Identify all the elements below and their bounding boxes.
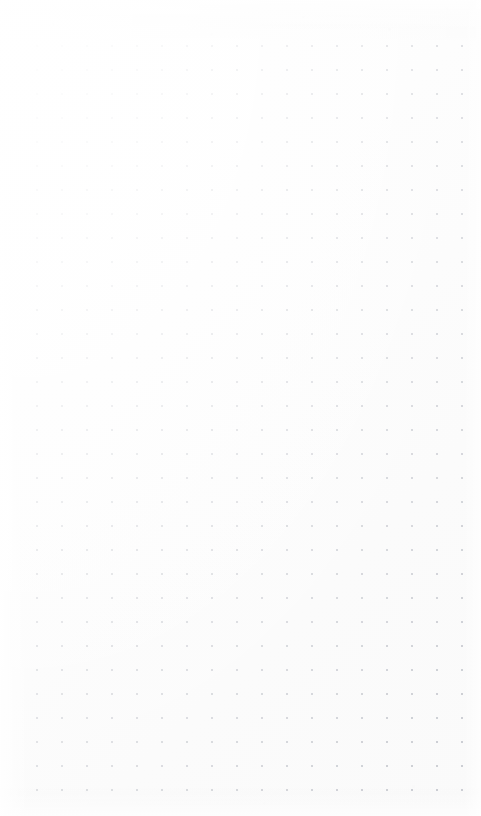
grid-dot bbox=[261, 189, 263, 191]
grid-dot bbox=[411, 597, 413, 599]
grid-dot bbox=[436, 621, 438, 623]
grid-dot bbox=[161, 261, 163, 263]
grid-dot bbox=[61, 645, 63, 647]
grid-dot bbox=[111, 549, 113, 551]
grid-dot bbox=[411, 357, 413, 359]
grid-dot bbox=[286, 693, 288, 695]
grid-dot bbox=[386, 477, 388, 479]
grid-dot bbox=[111, 789, 113, 791]
grid-dot bbox=[286, 405, 288, 407]
grid-dot bbox=[236, 237, 238, 239]
grid-dot bbox=[136, 573, 138, 575]
grid-dot bbox=[336, 573, 338, 575]
grid-dot bbox=[186, 69, 188, 71]
grid-dot bbox=[311, 477, 313, 479]
grid-dot bbox=[411, 117, 413, 119]
grid-dot bbox=[461, 405, 463, 407]
grid-dot bbox=[36, 549, 38, 551]
grid-dot bbox=[461, 693, 463, 695]
grid-dot bbox=[161, 189, 163, 191]
grid-dot bbox=[186, 45, 188, 47]
grid-dot bbox=[161, 501, 163, 503]
grid-dot bbox=[211, 405, 213, 407]
grid-dot bbox=[286, 357, 288, 359]
grid-dot bbox=[311, 501, 313, 503]
grid-dot bbox=[436, 453, 438, 455]
grid-dot bbox=[336, 405, 338, 407]
grid-dot bbox=[461, 309, 463, 311]
grid-dot bbox=[211, 213, 213, 215]
grid-dot bbox=[186, 669, 188, 671]
grid-dot bbox=[461, 213, 463, 215]
grid-dot bbox=[111, 453, 113, 455]
grid-dot bbox=[86, 597, 88, 599]
grid-dot bbox=[36, 381, 38, 383]
grid-dot bbox=[86, 45, 88, 47]
grid-dot bbox=[336, 165, 338, 167]
grid-dot bbox=[111, 189, 113, 191]
grid-dot bbox=[386, 501, 388, 503]
grid-dot bbox=[236, 357, 238, 359]
grid-dot bbox=[286, 765, 288, 767]
grid-dot bbox=[161, 45, 163, 47]
grid-dot bbox=[311, 789, 313, 791]
grid-dot bbox=[436, 381, 438, 383]
grid-dot bbox=[36, 597, 38, 599]
grid-dot bbox=[161, 597, 163, 599]
grid-dot bbox=[311, 549, 313, 551]
grid-dot bbox=[286, 453, 288, 455]
grid-dot bbox=[111, 261, 113, 263]
grid-dot bbox=[86, 717, 88, 719]
grid-dot bbox=[336, 285, 338, 287]
grid-dot bbox=[161, 453, 163, 455]
grid-dot bbox=[186, 165, 188, 167]
grid-dot bbox=[386, 621, 388, 623]
grid-dot bbox=[386, 141, 388, 143]
grid-dot bbox=[336, 693, 338, 695]
grid-dot bbox=[286, 285, 288, 287]
grid-dot bbox=[461, 261, 463, 263]
grid-dot bbox=[36, 693, 38, 695]
grid-dot bbox=[311, 597, 313, 599]
grid-dot bbox=[186, 237, 188, 239]
grid-dot bbox=[386, 741, 388, 743]
grid-dot bbox=[286, 525, 288, 527]
grid-dot bbox=[311, 429, 313, 431]
grid-dot bbox=[336, 669, 338, 671]
grid-dot bbox=[286, 645, 288, 647]
grid-dot bbox=[36, 93, 38, 95]
grid-dot bbox=[461, 141, 463, 143]
grid-dot bbox=[461, 117, 463, 119]
grid-dot bbox=[261, 405, 263, 407]
grid-dot bbox=[161, 741, 163, 743]
grid-dot bbox=[311, 573, 313, 575]
grid-dot bbox=[61, 189, 63, 191]
grid-dot bbox=[386, 549, 388, 551]
grid-dot bbox=[161, 285, 163, 287]
grid-dot bbox=[261, 693, 263, 695]
grid-dot bbox=[286, 573, 288, 575]
grid-dot bbox=[336, 333, 338, 335]
grid-dot bbox=[361, 789, 363, 791]
grid-dot bbox=[411, 669, 413, 671]
grid-dot bbox=[211, 333, 213, 335]
grid-dot bbox=[161, 573, 163, 575]
grid-dot bbox=[86, 69, 88, 71]
grid-dot bbox=[36, 405, 38, 407]
grid-dot bbox=[361, 381, 363, 383]
grid-dot bbox=[211, 525, 213, 527]
grid-dot bbox=[211, 261, 213, 263]
grid-dot bbox=[461, 549, 463, 551]
grid-dot bbox=[436, 213, 438, 215]
grid-dot bbox=[361, 549, 363, 551]
grid-dot bbox=[86, 309, 88, 311]
grid-dot bbox=[261, 237, 263, 239]
grid-dot bbox=[186, 645, 188, 647]
grid-dot bbox=[261, 45, 263, 47]
grid-dot bbox=[336, 477, 338, 479]
grid-dot bbox=[336, 189, 338, 191]
grid-dot bbox=[261, 597, 263, 599]
grid-dot bbox=[361, 693, 363, 695]
grid-dot bbox=[311, 693, 313, 695]
grid-dot bbox=[386, 765, 388, 767]
